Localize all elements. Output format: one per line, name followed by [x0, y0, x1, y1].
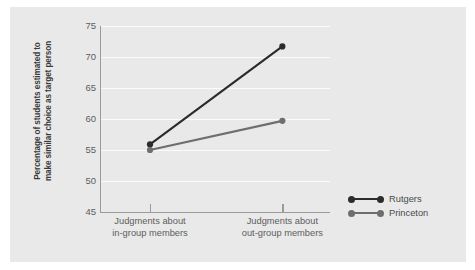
- data-point-rutgers-1: [279, 43, 285, 49]
- chart-figure: Percentage of students estimated to make…: [0, 0, 475, 270]
- series-line-princeton: [150, 121, 282, 150]
- data-point-rutgers-0: [147, 141, 153, 147]
- legend-label: Rutgers: [389, 194, 422, 205]
- chart-legend: RutgersPrinceton: [348, 192, 428, 220]
- series-line-rutgers: [150, 46, 282, 144]
- legend-label: Princeton: [389, 208, 428, 219]
- legend-marker-icon: [348, 208, 384, 218]
- data-series-layer: [0, 0, 475, 270]
- legend-marker-icon: [348, 194, 384, 204]
- data-point-princeton-1: [279, 118, 285, 124]
- legend-item-princeton[interactable]: Princeton: [348, 206, 428, 220]
- legend-item-rutgers[interactable]: Rutgers: [348, 192, 428, 206]
- data-point-princeton-0: [147, 147, 153, 153]
